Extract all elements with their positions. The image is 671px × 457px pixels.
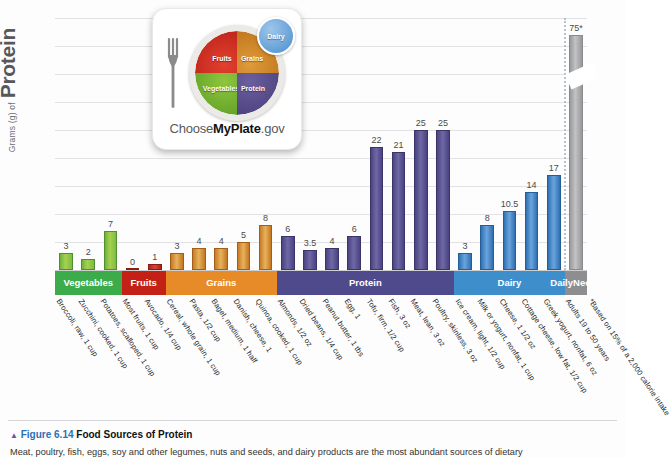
- bar-value-label: 5: [241, 230, 246, 240]
- plate-segment-vegetables: Vegetables: [195, 73, 237, 115]
- bar-19: 3: [458, 253, 472, 270]
- bar-value-label: 8: [485, 213, 490, 223]
- wordmark-myplate: MyPlate: [213, 121, 261, 136]
- bar-value-label: 4: [197, 236, 202, 246]
- bar-value-label: 3: [463, 241, 468, 251]
- bar-value-label: 21: [394, 140, 404, 150]
- category-label-dairy: Dairy: [454, 271, 565, 295]
- gridline: [55, 18, 587, 19]
- bar-16: 21: [392, 152, 406, 270]
- bar-17: 25: [414, 130, 428, 270]
- bar-14: 6: [347, 236, 361, 270]
- bar-12: 3.5: [303, 250, 317, 270]
- bar-value-label: 6: [352, 224, 357, 234]
- category-label-text: Needs: [573, 278, 602, 288]
- bar-value-label: 75*: [569, 23, 583, 33]
- x-tick-label-1: Broccoli, raw, 1 cup: [54, 297, 99, 358]
- category-label-vegetables: Vegetables: [55, 271, 122, 295]
- bar-value-label: 7: [108, 219, 113, 229]
- gridline: [55, 130, 587, 131]
- bar-value-label: 1: [152, 252, 157, 262]
- bar-value-label: 3: [64, 241, 69, 251]
- myplate-wordmark: ChooseMyPlate.gov: [153, 121, 301, 136]
- bar-24: 75*: [569, 35, 583, 270]
- category-band: VegetablesFruitsGrainsProteinDairyDailyN…: [55, 271, 587, 295]
- bar-value-label: 4: [330, 236, 335, 246]
- bar-7: 4: [192, 248, 206, 270]
- caption-heading: ▲ Figure 6.14 Food Sources of Protein: [10, 428, 615, 442]
- category-label-daily: DailyNeeds: [565, 271, 587, 295]
- category-label-grains: Grains: [166, 271, 277, 295]
- plate-segment-grains-label: Grains: [241, 55, 263, 62]
- bar-value-label: 6: [285, 224, 290, 234]
- bar-10: 8: [259, 225, 273, 270]
- bar-11: 6: [281, 236, 295, 270]
- bar-18: 25: [436, 130, 450, 270]
- gridline: [55, 46, 587, 47]
- x-tick-label-13: Peanut butter, 1 tbs: [320, 297, 365, 358]
- bar-value-label: 25: [438, 118, 448, 128]
- chart-plot-area: 327013445863.546222125253810.5141775*: [55, 18, 587, 270]
- fork-icon: [167, 37, 179, 109]
- figure-caption: ▲ Figure 6.14 Food Sources of Protein Me…: [10, 428, 615, 457]
- bar-4: [126, 268, 140, 270]
- category-label-fruits: Fruits: [122, 271, 166, 295]
- x-tick-label-15: Tofu, firm, 1/2 cup: [365, 297, 407, 354]
- bar-15: 22: [370, 147, 384, 270]
- category-label-text: Dairy: [498, 278, 522, 288]
- plate-segment-dairy: Dairy: [257, 17, 295, 55]
- bar-value-label: 2: [86, 247, 91, 257]
- bar-6: 3: [170, 253, 184, 270]
- bar-3: 7: [104, 231, 118, 270]
- plate-segment-fruits: Fruits: [195, 31, 237, 73]
- gridline: [55, 102, 587, 103]
- wordmark-choose: Choose: [169, 121, 213, 136]
- bar-20: 8: [480, 225, 494, 270]
- bar-5: 1: [148, 264, 162, 270]
- bar-value-label: 17: [549, 163, 559, 173]
- bar-23: 17: [547, 175, 561, 270]
- wordmark-gov: .gov: [261, 121, 285, 136]
- axis-break-marker: [565, 62, 599, 89]
- plate-segment-vegetables-label: Vegetables: [203, 85, 240, 92]
- bar-22: 14: [525, 192, 539, 270]
- bar-21: 10.5: [503, 211, 517, 270]
- gridline: [55, 186, 587, 187]
- caption-body: Meat, poultry, fish, eggs, soy and other…: [10, 446, 615, 457]
- bar-8: 4: [214, 248, 228, 270]
- figure-number: Figure 6.14: [21, 429, 74, 440]
- plate-segment-protein-label: Protein: [241, 85, 265, 92]
- plate-segment-protein: Protein: [237, 73, 279, 115]
- bar-value-label: 14: [527, 180, 537, 190]
- x-tick-label-14: Egg, 1: [342, 297, 362, 321]
- caption-divider: [8, 420, 617, 421]
- category-label-text: Vegetables: [63, 278, 113, 288]
- bar-value-label: 10.5: [501, 199, 519, 209]
- bar-1: 3: [59, 253, 73, 270]
- bar-value-label: 4: [219, 236, 224, 246]
- bar-value-label: 22: [371, 135, 381, 145]
- bar-13: 4: [325, 248, 339, 270]
- bar-value-label: 0: [130, 257, 135, 267]
- caption-triangle-icon: ▲: [10, 431, 18, 440]
- y-axis-title: Grams (g) of Protein: [0, 28, 26, 278]
- bar-value-label: 8: [263, 213, 268, 223]
- gridline: [55, 74, 587, 75]
- category-label-text: Grains: [206, 278, 236, 288]
- daily-needs-separator: [564, 18, 566, 270]
- gridline: [55, 158, 587, 159]
- plate-segment-fruits-label: Fruits: [212, 55, 231, 62]
- x-tick-label-25: *Based on 15% of a 2,000 calorie intake: [586, 297, 671, 417]
- plate-segment-dairy-label: Dairy: [267, 33, 285, 40]
- bar-2: 2: [81, 259, 95, 270]
- bar-value-label: 3: [174, 241, 179, 251]
- x-axis-tick-labels: Broccoli, raw, 1 cupZucchini, cooked, 1 …: [55, 297, 625, 412]
- bar-9: 5: [237, 242, 251, 270]
- category-label-text: Protein: [349, 278, 382, 288]
- category-label-text: Fruits: [130, 278, 156, 288]
- bar-value-label: 25: [416, 118, 426, 128]
- y-axis-label: Protein: [0, 28, 20, 98]
- category-label-protein: Protein: [277, 271, 454, 295]
- figure-title: Food Sources of Protein: [76, 429, 192, 440]
